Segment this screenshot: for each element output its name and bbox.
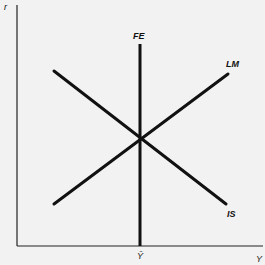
- x-tick-ybar-label: Ȳ: [137, 252, 143, 261]
- fe-label: FE: [133, 32, 145, 41]
- lm-label: LM: [226, 60, 239, 69]
- x-axis-label: Y: [256, 255, 262, 264]
- y-axis-label: r: [4, 3, 7, 12]
- is-label: IS: [227, 210, 236, 219]
